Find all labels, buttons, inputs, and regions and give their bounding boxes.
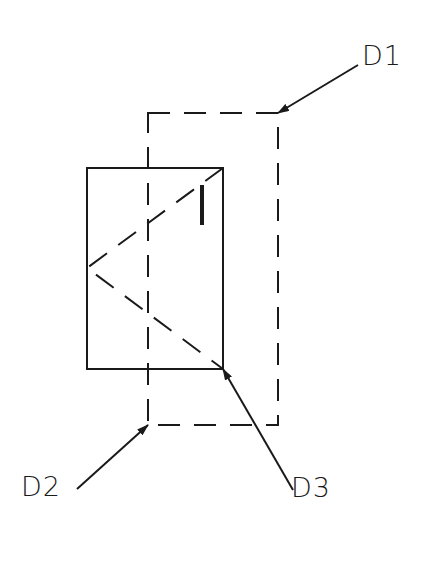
dashed-rectangle <box>148 113 278 425</box>
d3-leader-arrow <box>223 369 293 490</box>
label-d1: D1 <box>362 42 402 69</box>
label-d2: D2 <box>21 473 61 500</box>
d1-leader-arrow <box>278 65 358 113</box>
label-d3: D3 <box>291 474 331 501</box>
d2-leader-arrow <box>77 425 148 489</box>
diagram-canvas <box>0 0 421 564</box>
